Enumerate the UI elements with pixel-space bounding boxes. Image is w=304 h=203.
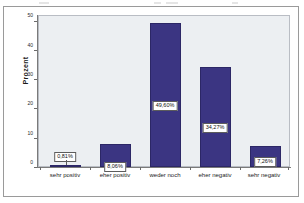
x-tick-mark: [240, 167, 241, 170]
x-label-eher-negativ: eher negativ: [198, 172, 231, 178]
x-tick-mark: [40, 167, 41, 170]
x-label-eher-positiv: eher positiv: [100, 172, 131, 178]
y-tick-mark: [34, 138, 37, 139]
x-tick-mark: [90, 167, 91, 170]
scan-artifact: [166, 2, 178, 4]
x-tick-mark: [288, 167, 289, 170]
bar-eher-negativ[interactable]: [200, 67, 231, 167]
y-tick-label: 20: [19, 101, 33, 106]
x-axis-labels: sehr positiv eher positiv weder noch ehe…: [38, 170, 290, 184]
y-tick-mark: [34, 50, 37, 51]
scan-artifact: [154, 2, 161, 4]
scan-artifact: [232, 2, 238, 4]
y-tick-mark: [34, 21, 37, 22]
data-label-eher-negativ: 34,27%: [203, 123, 228, 133]
data-label-sehr-positiv: 0,81%: [54, 152, 76, 162]
x-tick-mark: [140, 167, 141, 170]
x-label-weder-noch: weder noch: [149, 172, 180, 178]
y-tick-label: 10: [19, 131, 33, 136]
x-axis-line: [37, 167, 291, 168]
x-label-sehr-negativ: sehr negativ: [248, 172, 281, 178]
scan-artifact: [39, 2, 49, 4]
bar-weder-noch[interactable]: [150, 23, 181, 167]
y-tick-label: 50: [19, 13, 33, 18]
y-tick-label: 0: [19, 160, 33, 165]
y-tick-label: 30: [19, 72, 33, 77]
bar-sehr-positiv[interactable]: [50, 165, 81, 167]
y-tick-mark: [34, 79, 37, 80]
y-tick-mark: [34, 108, 37, 109]
data-label-sehr-negativ: 7,26%: [254, 157, 276, 167]
data-label-leader: [66, 160, 67, 165]
y-tick-mark: [34, 167, 37, 168]
x-label-sehr-positiv: sehr positiv: [50, 172, 80, 178]
y-axis-line: [37, 15, 38, 168]
bars-layer: [39, 16, 289, 167]
data-label-weder-noch: 49,60%: [153, 101, 178, 111]
x-tick-mark: [190, 167, 191, 170]
chart-figure-frame: Prozent 50 40 30 20 10 0 0,81% 8,06% 49,…: [3, 6, 299, 197]
y-tick-label: 40: [19, 43, 33, 48]
